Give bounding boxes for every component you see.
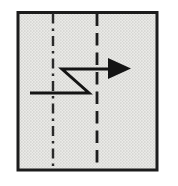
pleat-fold-diagram <box>0 0 178 186</box>
diagram-canvas <box>0 0 178 186</box>
